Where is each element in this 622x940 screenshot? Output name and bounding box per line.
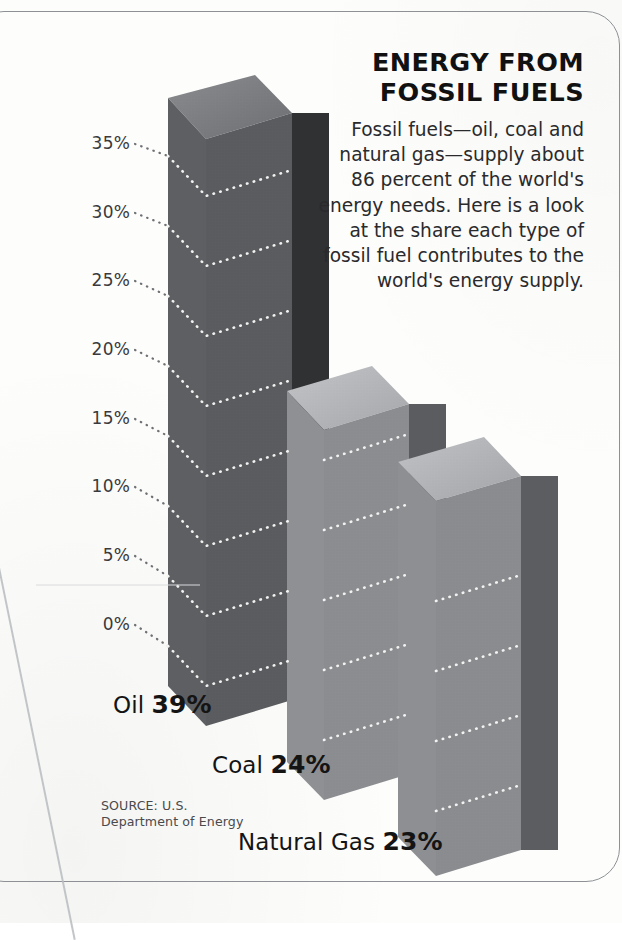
page-title: ENERGY FROM FOSSIL FUELS [322, 48, 584, 107]
bar-label-coal: Coal 24% [212, 750, 331, 779]
y-axis-label-15: 15% [50, 408, 130, 428]
intro-paragraph: Fossil fuels—oil, coal and natural gas—s… [312, 117, 584, 293]
bar-gas-side-face [521, 476, 558, 850]
bar-label-oil-value: 39% [152, 690, 212, 719]
source-credit: SOURCE: U.S. Department of Energy [101, 798, 251, 831]
bar-natural-gas [398, 437, 558, 876]
bar-label-gas-value: 23% [383, 827, 443, 856]
bar-label-gas-name: Natural Gas [238, 829, 375, 855]
bar-label-coal-value: 24% [270, 750, 330, 779]
bar-coal-left-face [287, 391, 324, 800]
bar-label-oil-name: Oil [113, 692, 144, 718]
y-axis-label-25: 25% [50, 270, 130, 290]
y-axis-label-20: 20% [50, 339, 130, 359]
bar-gas-left-face [398, 462, 436, 876]
bar-label-natural-gas: Natural Gas 23% [238, 827, 443, 856]
y-axis-label-5: 5% [50, 545, 130, 565]
y-axis-label-30: 30% [50, 202, 130, 222]
bar-oil-left-face [168, 98, 206, 726]
bar-label-oil: Oil 39% [113, 690, 212, 719]
y-axis-label-35: 35% [50, 133, 130, 153]
y-axis-label-0: 0% [50, 614, 130, 634]
y-axis-label-10: 10% [50, 476, 130, 496]
bar-label-coal-name: Coal [212, 752, 263, 778]
